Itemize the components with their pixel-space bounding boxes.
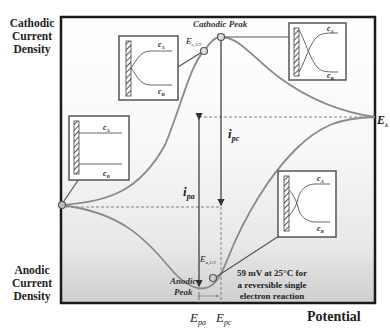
separation-note: 59 mV at 25°C for a reversible single el… (237, 268, 307, 301)
inset-cathodic-peak: cA cB (289, 23, 346, 81)
ec-half-marker (201, 48, 208, 55)
inset-ec-half: cA cB (119, 36, 178, 100)
anodic-peak-line: Anodic (169, 276, 197, 286)
cb-sub: B (320, 229, 325, 234)
ca-sub: A (320, 179, 325, 184)
anodic-peak-line: Peak (174, 287, 193, 297)
inset-start: cA cB (69, 116, 129, 180)
epc-e: E (215, 310, 224, 325)
ipa-sub: pa (186, 192, 195, 201)
ea-half-marker (210, 275, 217, 282)
e-lambda-sub: λ (384, 121, 388, 129)
note-line: electron reaction (240, 291, 304, 301)
cathodic-peak-marker (218, 34, 225, 41)
inset-ea-half: cA cB (278, 171, 336, 237)
epc-sub: pc (223, 318, 232, 327)
cb-sub: B (161, 92, 166, 97)
cathodic-peak-label: Cathodic Peak (193, 19, 248, 29)
cb-sub: B (330, 76, 335, 81)
ca-sub: A (161, 45, 166, 50)
epc-label: Epc (215, 310, 232, 327)
e-lambda-label: Eλ (376, 113, 388, 129)
e-lambda-e: E (376, 113, 385, 127)
cb-sub: B (106, 174, 111, 179)
start-point-marker (59, 202, 66, 209)
voltammogram-diagram: cA cB cA cB cA cB cA cB Cathodic Peak Ec… (0, 0, 390, 335)
ipc-sub: pc (231, 134, 240, 143)
epa-label: Epa (189, 310, 206, 327)
note-line: a reversible single (238, 280, 307, 290)
ca-sub: A (106, 128, 111, 133)
ca-sub: A (330, 29, 335, 34)
anodic-peak-label: Anodic Peak (169, 276, 197, 297)
epa-sub: pa (197, 318, 206, 327)
epa-e: E (189, 310, 198, 325)
note-line: 59 mV at 25°C for (237, 268, 307, 278)
